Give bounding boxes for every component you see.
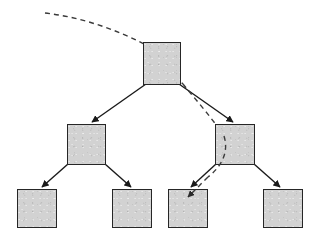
- node-leaf-2[interactable]: [112, 189, 152, 228]
- dashed-entry-curve-icon: [45, 13, 144, 44]
- edge-mid-left-to-leaf-2: [105, 164, 131, 187]
- edge-mid-right-to-leaf-4: [254, 164, 280, 187]
- node-leaf-4[interactable]: [263, 189, 303, 228]
- traversal-path-lower-segments: [45, 13, 224, 136]
- node-root[interactable]: [143, 42, 181, 85]
- edge-mid-right-to-leaf-3: [191, 164, 216, 187]
- edge-mid-left-to-leaf-1: [42, 164, 68, 187]
- node-leaf-3[interactable]: [168, 189, 208, 228]
- edge-root-to-mid-left: [92, 84, 146, 122]
- tree-diagram-figure: [0, 0, 320, 240]
- node-leaf-1[interactable]: [17, 189, 57, 228]
- node-mid-right[interactable]: [215, 124, 255, 165]
- edge-root-to-mid-right: [179, 84, 233, 122]
- node-mid-left[interactable]: [67, 124, 106, 165]
